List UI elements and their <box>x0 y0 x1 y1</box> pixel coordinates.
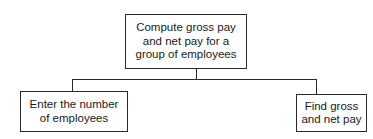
connector-to-left-child <box>72 79 73 91</box>
child-module-enter-number-box: Enter the number of employees <box>20 91 128 132</box>
child-module-find-pay-label: Find gross and net pay <box>301 100 361 127</box>
connector-horizontal-bus <box>72 79 317 80</box>
root-module-label: Compute gross pay and net pay for a grou… <box>135 21 236 62</box>
hierarchy-diagram: Compute gross pay and net pay for a grou… <box>0 0 373 139</box>
child-module-enter-number-label: Enter the number of employees <box>30 98 119 125</box>
root-module-box: Compute gross pay and net pay for a grou… <box>125 14 247 69</box>
child-module-find-pay-box: Find gross and net pay <box>296 94 367 132</box>
connector-to-right-child <box>316 79 317 94</box>
